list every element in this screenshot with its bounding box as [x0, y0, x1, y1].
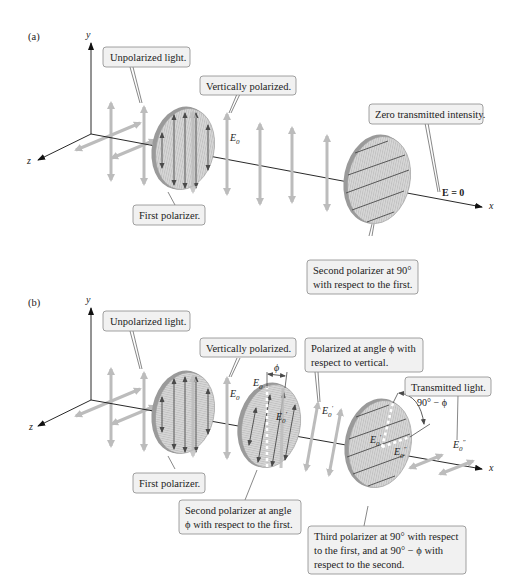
leader-zero: [425, 123, 440, 192]
svg-text:First polarizer.: First polarizer.: [139, 478, 200, 489]
svg-text:respect to the second.: respect to the second.: [314, 559, 404, 570]
ninety-minus-phi-label: 90° − ϕ: [417, 397, 447, 408]
leader-vertical: [229, 358, 240, 377]
y-axis-label: y: [85, 29, 91, 40]
leader-vertical: [229, 94, 240, 113]
svg-text:Zero transmitted intensity.: Zero transmitted intensity.: [375, 109, 485, 120]
callout-third-polarizer: Third polarizer at 90° with respect to t…: [308, 526, 466, 574]
phi-label: ϕ: [274, 362, 279, 373]
svg-text:with respect to the first.: with respect to the first.: [313, 279, 412, 290]
e0-dprime-out-label: E0″: [452, 438, 466, 453]
callout-second-polarizer: Second polarizer at 90° with respect to …: [307, 260, 418, 294]
svg-text:Vertically polarized.: Vertically polarized.: [206, 81, 291, 92]
x-axis-label: x: [488, 462, 494, 473]
panel-b-tag: (b): [28, 297, 41, 309]
svg-text:Vertically polarized.: Vertically polarized.: [206, 343, 291, 354]
leader-angle: [315, 372, 320, 402]
svg-text:Polarized at angle ϕ with: Polarized at angle ϕ with: [311, 343, 416, 354]
first-polarizer: [144, 365, 222, 460]
polarization-diagram: (a) y z x: [0, 0, 518, 581]
e-zero-label: E = 0: [442, 187, 464, 198]
leader-second: [245, 470, 257, 500]
svg-text:ϕ with respect to the first.: ϕ with respect to the first.: [185, 519, 293, 530]
second-polarizer: [230, 372, 308, 473]
callout-zero-intensity: Zero transmitted intensity.: [369, 104, 485, 124]
leader-unpolarized: [130, 331, 142, 369]
leader-first: [168, 456, 175, 469]
e0-label: E0: [229, 132, 240, 146]
svg-text:Second polarizer at angle: Second polarizer at angle: [185, 505, 292, 516]
svg-text:Transmitted light.: Transmitted light.: [411, 382, 486, 393]
callout-first-polarizer: First polarizer.: [133, 473, 205, 493]
callout-first-polarizer: First polarizer.: [133, 205, 205, 225]
y-axis-label: y: [85, 294, 91, 305]
svg-text:respect to vertical.: respect to vertical.: [311, 357, 388, 368]
e0-prime-mid-label: E0′: [321, 404, 334, 419]
leader-transmitted: [457, 395, 458, 440]
z-axis-label: z: [28, 421, 33, 432]
z-axis-label: z: [26, 155, 31, 166]
panel-b: (b) y z x E0: [28, 294, 494, 574]
callout-angle-polarized: Polarized at angle ϕ with respect to ver…: [305, 338, 423, 372]
svg-text:First polarizer.: First polarizer.: [139, 210, 200, 221]
callout-transmitted: Transmitted light.: [405, 377, 491, 396]
e0-label: E0: [229, 388, 240, 402]
leader-unpolarized: [130, 67, 142, 103]
third-polarizer: [336, 392, 430, 493]
callout-unpolarized: Unpolarized light.: [103, 311, 190, 331]
svg-text:Second polarizer at 90°: Second polarizer at 90°: [313, 265, 411, 276]
svg-text:Unpolarized light.: Unpolarized light.: [110, 316, 186, 327]
leader-first: [168, 192, 175, 205]
x-axis: [91, 134, 482, 207]
leader-third: [364, 506, 368, 526]
first-polarizer: [144, 101, 222, 196]
second-polarizer: [335, 128, 418, 229]
svg-text:Unpolarized light.: Unpolarized light.: [110, 52, 186, 63]
svg-text:Third polarizer at 90° with re: Third polarizer at 90° with respect: [314, 531, 459, 542]
panel-a: (a) y z x: [26, 29, 494, 294]
leader-second: [369, 224, 374, 236]
svg-text:to the first, and at 90° − ϕ w: to the first, and at 90° − ϕ with: [314, 545, 444, 556]
callout-vertical: Vertically polarized.: [200, 338, 296, 357]
x-axis-label: x: [488, 200, 494, 211]
callout-second-polarizer: Second polarizer at angle ϕ with respect…: [179, 500, 301, 534]
callout-unpolarized: Unpolarized light.: [103, 47, 190, 67]
panel-a-tag: (a): [28, 31, 40, 43]
callout-vertical: Vertically polarized.: [200, 76, 296, 95]
